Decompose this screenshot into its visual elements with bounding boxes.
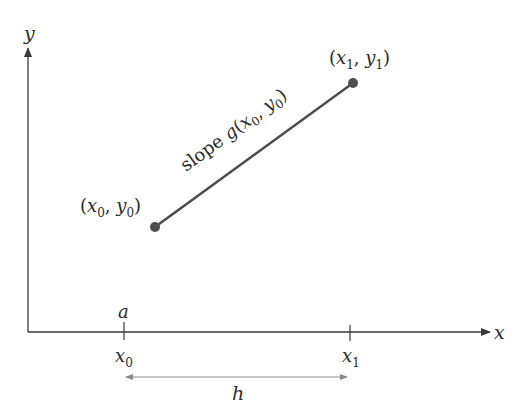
point-label-x1-y1: (x1, y1) [329,47,390,72]
slope-label: slope g(x0, y0) [176,84,292,178]
svg-text:slope g(x0, y0): slope g(x0, y0) [176,84,292,178]
tick-label-x0: x0 [115,345,133,370]
point-x1-y1 [348,78,358,88]
x-axis-label: x [494,321,505,343]
point-x0-y0 [150,222,160,232]
point-label-x0-y0: (x0, y0) [80,195,141,220]
y-axis-label: y [23,22,35,44]
tick-label-x1: x1 [342,345,360,370]
secant-diagram: y x a x0 x1 h slope g(x0, y0) (x0, y0) (… [0,0,517,408]
h-label: h [232,382,244,404]
tick-label-a: a [118,301,129,322]
